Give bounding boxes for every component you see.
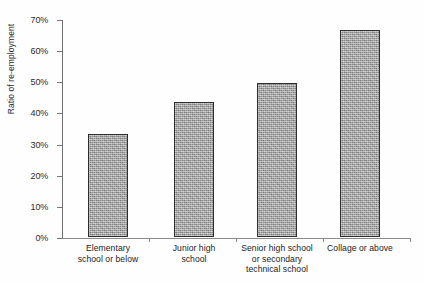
x-axis-category-label-line: technical school xyxy=(234,264,321,275)
bar xyxy=(340,30,380,237)
x-axis-category-label-line: Senior high school xyxy=(234,243,321,254)
x-axis-category-label-line: Elementary xyxy=(65,243,152,254)
bar xyxy=(257,83,297,237)
x-axis-category-label: Collage or above xyxy=(317,243,404,254)
x-axis-category-label: Junior highschool xyxy=(151,243,238,264)
y-axis-tick-label: 20% xyxy=(31,171,48,181)
x-axis-category-label: Elementaryschool or below xyxy=(65,243,152,264)
y-axis-tick: 60% xyxy=(57,51,62,52)
x-axis-tick xyxy=(410,238,411,242)
bar-chart: Ratio of re-employment 0%10%20%30%40%50%… xyxy=(0,0,424,283)
bar xyxy=(88,134,128,237)
y-axis-title: Ratio of re-employment xyxy=(6,14,16,124)
y-axis-tick: 40% xyxy=(57,113,62,114)
y-axis-tick-label: 50% xyxy=(31,77,48,87)
x-axis-category-label-line: or secondary xyxy=(234,254,321,265)
x-axis-tick xyxy=(236,238,237,242)
plot-area: 0%10%20%30%40%50%60%70% xyxy=(62,20,410,238)
y-axis-tick-label: 30% xyxy=(31,140,48,150)
y-axis-tick-label: 40% xyxy=(31,108,48,118)
y-axis-tick: 20% xyxy=(57,176,62,177)
y-axis-tick: 50% xyxy=(57,82,62,83)
x-axis-category-label-line: school or below xyxy=(65,254,152,265)
y-axis-line xyxy=(62,20,63,239)
x-axis-tick xyxy=(323,238,324,242)
y-axis-tick: 70% xyxy=(57,20,62,21)
y-axis-tick-label: 70% xyxy=(31,15,48,25)
bar xyxy=(174,102,214,237)
x-axis-category-label-line: Collage or above xyxy=(317,243,404,254)
x-axis-labels: Elementaryschool or belowJunior highscho… xyxy=(62,243,410,283)
y-axis-tick-label: 10% xyxy=(31,202,48,212)
x-axis-category-label-line: school xyxy=(151,254,238,265)
y-axis-tick: 10% xyxy=(57,207,62,208)
y-axis-tick: 30% xyxy=(57,145,62,146)
y-axis-tick: 0% xyxy=(57,238,62,239)
x-axis-category-label: Senior high schoolor secondarytechnical … xyxy=(234,243,321,275)
y-axis-tick-label: 0% xyxy=(35,233,48,243)
x-axis-tick xyxy=(149,238,150,242)
y-axis-tick-label: 60% xyxy=(31,46,48,56)
x-axis-category-label-line: Junior high xyxy=(151,243,238,254)
